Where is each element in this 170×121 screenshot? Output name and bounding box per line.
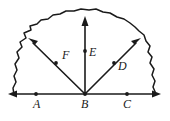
point-marker-D [112,61,116,65]
point-marker-C [125,92,129,96]
point-label-B: B [81,97,89,111]
geometry-figure: A B C D E F [0,0,170,121]
point-marker-A [34,92,38,96]
ray-b-to-e-arrowhead [82,16,89,26]
point-label-C: C [123,97,132,111]
ray-b-to-f-group [28,38,85,94]
point-marker-F [54,61,58,65]
point-label-D: D [117,59,127,73]
point-marker-E [83,49,87,53]
baseline-right-arrowhead [152,91,161,98]
point-marker-B [83,92,87,96]
point-label-E: E [88,45,97,59]
point-label-F: F [61,48,70,62]
ray-b-to-f-line [33,43,85,94]
figure-canvas: A B C D E F [0,0,170,121]
ray-b-to-e-group [82,16,89,94]
point-label-A: A [32,97,41,111]
baseline-left-arrowhead [8,91,17,98]
